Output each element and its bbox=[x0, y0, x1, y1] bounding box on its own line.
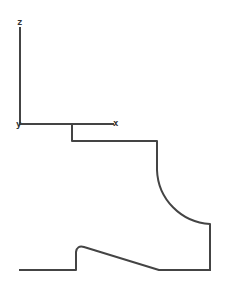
z-axis-label: z bbox=[17, 18, 22, 27]
y-axis-label: y bbox=[16, 120, 21, 129]
x-axis-label: x bbox=[113, 119, 118, 128]
profile-bottom bbox=[20, 247, 210, 270]
profile-upper bbox=[72, 124, 210, 270]
diagram-canvas bbox=[0, 0, 228, 286]
